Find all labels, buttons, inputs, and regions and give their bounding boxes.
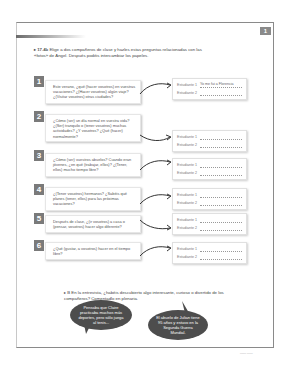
answer-label: Estudiante 1 bbox=[177, 161, 197, 169]
answer-row: Estudiante 2 bbox=[177, 224, 242, 232]
answer-row: Estudiante 1 bbox=[177, 133, 242, 141]
question-text: ¿(Tener vosotros) hermanos? ¿Sabéis qué … bbox=[53, 191, 127, 206]
question-number-3: 3 bbox=[34, 150, 44, 161]
question-card-1: Este verano, ¿qué (hacer vosotros) en vu… bbox=[45, 80, 141, 104]
activity-1-instruction: ▸ 17.4b Elige a dos compañeros de clase … bbox=[34, 47, 209, 58]
answer-label: Estudiante 1 bbox=[177, 216, 197, 224]
question-number-2: 2 bbox=[34, 111, 44, 122]
answer-field[interactable] bbox=[200, 255, 242, 260]
speech-bubble-text: El abuelo de Julian tiene 95 años y estu… bbox=[156, 315, 200, 336]
answer-field[interactable] bbox=[200, 163, 242, 168]
answer-label: Estudiante 2 bbox=[177, 141, 197, 149]
speech-bubble-text: Pensaba que Claire practicaba muchos más… bbox=[78, 305, 124, 326]
question-text: ¿Cómo (ser) vuestros abuelos? Cuando era… bbox=[53, 157, 131, 172]
question-text: Después de clase, ¿(ir vosotros) a casa … bbox=[53, 219, 125, 229]
curved-arrow-icon bbox=[138, 158, 172, 172]
bullet-icon: ▸ bbox=[64, 290, 66, 295]
answer-label: Estudiante 1 bbox=[177, 191, 197, 199]
answer-row: Estudiante 2 bbox=[177, 141, 242, 149]
answer-card-3: Estudiante 1 Estudiante 2 bbox=[172, 158, 247, 180]
answer-field[interactable] bbox=[200, 226, 242, 231]
answer-value: Yo me fui a Florencia bbox=[200, 82, 234, 86]
question-card-5: Después de clase, ¿(ir vosotros) a casa … bbox=[45, 215, 141, 233]
answer-card-6: Estudiante 1 Estudiante 2 bbox=[172, 242, 247, 264]
answer-field[interactable] bbox=[200, 171, 242, 176]
question-text: ¿Cómo (ser) un día normal en vuestra vid… bbox=[53, 118, 129, 139]
question-text: ¿Qué (gustar, a vosotros) hacer en el ti… bbox=[53, 246, 130, 256]
activity-badge: 17.4b bbox=[37, 47, 48, 52]
answer-row: Estudiante 1 Yo me fui a Florencia bbox=[177, 81, 242, 89]
question-card-6: ¿Qué (gustar, a vosotros) hacer en el ti… bbox=[45, 242, 141, 260]
answer-card-5: Estudiante 1 Estudiante 2 bbox=[172, 213, 247, 235]
page-footer: —— —— bbox=[240, 351, 253, 355]
instruction-text: Elige a dos compañeros de clase y hazles… bbox=[34, 47, 202, 58]
curved-arrow-icon bbox=[138, 132, 172, 146]
activity-badge: B bbox=[67, 290, 70, 295]
question-card-2: ¿Cómo (ser) un día normal en vuestra vid… bbox=[45, 114, 141, 142]
answer-label: Estudiante 1 bbox=[177, 245, 197, 253]
answer-card-2: Estudiante 1 Estudiante 2 bbox=[172, 130, 247, 152]
answer-label: Estudiante 2 bbox=[177, 253, 197, 261]
answer-label: Estudiante 2 bbox=[177, 224, 197, 232]
question-card-3: ¿Cómo (ser) vuestros abuelos? Cuando era… bbox=[45, 153, 141, 177]
question-number-5: 5 bbox=[34, 213, 44, 224]
answer-label: Estudiante 2 bbox=[177, 199, 197, 207]
header-gradient-bar bbox=[16, 35, 86, 38]
answer-field[interactable] bbox=[200, 247, 242, 252]
unit-tab: 1 bbox=[260, 27, 271, 35]
answer-row: Estudiante 2 bbox=[177, 199, 242, 207]
answer-field[interactable] bbox=[200, 91, 242, 96]
answer-field[interactable] bbox=[200, 143, 242, 148]
answer-row: Estudiante 1 bbox=[177, 191, 242, 199]
answer-label: Estudiante 2 bbox=[177, 89, 197, 97]
speech-bubble-1: Pensaba que Claire practicaba muchos más… bbox=[70, 300, 132, 330]
answer-field[interactable] bbox=[200, 135, 242, 140]
question-number-4: 4 bbox=[34, 184, 44, 195]
bullet-icon: ▸ bbox=[34, 47, 36, 52]
speech-bubble-2: El abuelo de Julian tiene 95 años y estu… bbox=[148, 310, 208, 340]
question-number-6: 6 bbox=[34, 240, 44, 251]
question-card-4: ¿(Tener vosotros) hermanos? ¿Sabéis qué … bbox=[45, 187, 141, 211]
answer-label: Estudiante 1 bbox=[177, 133, 197, 141]
curved-arrow-icon bbox=[138, 244, 172, 258]
answer-card-4: Estudiante 1 Estudiante 2 bbox=[172, 188, 247, 210]
question-text: Este verano, ¿qué (hacer vosotros) en vu… bbox=[53, 84, 135, 99]
answer-card-1: Estudiante 1 Yo me fui a Florencia Estud… bbox=[172, 78, 247, 100]
answer-label: Estudiante 2 bbox=[177, 169, 197, 177]
answer-row: Estudiante 2 bbox=[177, 89, 242, 97]
answer-row: Estudiante 1 bbox=[177, 216, 242, 224]
curved-arrow-icon bbox=[138, 82, 172, 96]
answer-field[interactable] bbox=[200, 218, 242, 223]
answer-field[interactable]: Yo me fui a Florencia bbox=[200, 83, 242, 88]
question-number-1: 1 bbox=[34, 76, 44, 87]
answer-row: Estudiante 1 bbox=[177, 161, 242, 169]
answer-field[interactable] bbox=[200, 193, 242, 198]
answer-row: Estudiante 2 bbox=[177, 253, 242, 261]
answer-field[interactable] bbox=[200, 201, 242, 206]
answer-row: Estudiante 1 bbox=[177, 245, 242, 253]
curved-arrow-icon bbox=[138, 192, 172, 206]
curved-arrow-icon bbox=[138, 218, 172, 232]
instruction-text: En la entrevista, ¿habéis descubierto al… bbox=[64, 290, 224, 301]
answer-row: Estudiante 2 bbox=[177, 169, 242, 177]
activity-2-instruction: ▸ B En la entrevista, ¿habéis descubiert… bbox=[64, 290, 234, 301]
answer-label: Estudiante 1 bbox=[177, 81, 197, 89]
